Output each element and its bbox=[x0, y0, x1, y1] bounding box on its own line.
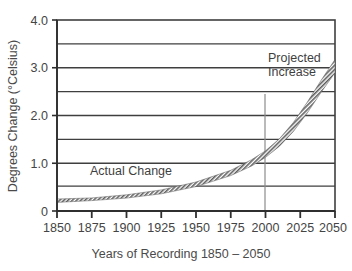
y-tick-label-1-0: 1.0 bbox=[31, 157, 48, 171]
x-tick-label-1850: 1850 bbox=[43, 221, 71, 235]
y-tick-label-4-0: 4.0 bbox=[31, 14, 48, 28]
x-tick-label-1875: 1875 bbox=[78, 221, 106, 235]
x-tick-label-1925: 1925 bbox=[147, 221, 175, 235]
x-tick-label-1950: 1950 bbox=[182, 221, 210, 235]
x-tick-label-2025: 2025 bbox=[286, 221, 314, 235]
x-tick-label-2050: 2050 bbox=[319, 221, 347, 235]
y-axis-title: Degrees Change (°Celsius) bbox=[6, 40, 20, 192]
x-tick-label-1900: 1900 bbox=[113, 221, 141, 235]
x-axis-title: Years of Recording 1850 – 2050 bbox=[92, 247, 271, 261]
annotation-projected-line1: Projected bbox=[268, 51, 321, 65]
temperature-change-chart: 4.0 3.0 2.0 1.0 0 1850 1875 1900 1925 19… bbox=[0, 0, 352, 271]
annotation-actual-change: Actual Change bbox=[90, 164, 172, 178]
x-tick-label-1975: 1975 bbox=[217, 221, 245, 235]
y-tick-label-3-0: 3.0 bbox=[31, 61, 48, 75]
x-tick-label-2000: 2000 bbox=[252, 221, 280, 235]
y-tick-label-2-0: 2.0 bbox=[31, 109, 48, 123]
annotation-projected-line2: Increase bbox=[268, 65, 316, 79]
chart-container: 4.0 3.0 2.0 1.0 0 1850 1875 1900 1925 19… bbox=[0, 0, 352, 271]
y-tick-label-0: 0 bbox=[41, 205, 48, 219]
